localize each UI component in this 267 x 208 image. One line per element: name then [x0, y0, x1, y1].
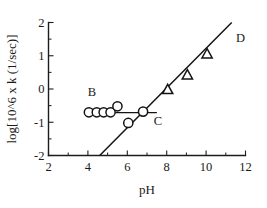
x-tick-label: 4	[85, 160, 92, 174]
y-axis-tick-labels: 210-1-2	[34, 16, 44, 163]
y-axis-title: log[10^6 x k (1/sec)]	[4, 35, 19, 144]
y-tick-label: -1	[34, 116, 44, 130]
y-tick-label: -2	[34, 149, 44, 163]
y-tick-label: 2	[38, 16, 44, 30]
x-axis-tick-labels: 24681012	[45, 160, 251, 174]
x-tick-label: 2	[45, 160, 51, 174]
x-axis: 24681012	[45, 151, 251, 174]
plot-canvas: 210-1-2 24681012 BCD pH log[10^6 x k (1/…	[0, 0, 267, 208]
x-tick-label: 8	[164, 160, 170, 174]
y-axis: 210-1-2	[34, 16, 53, 163]
annotation-label-c: C	[154, 114, 162, 128]
annotation-label-b: B	[88, 85, 96, 99]
x-tick-label: 6	[124, 160, 130, 174]
annotation-label-d: D	[236, 31, 245, 45]
y-tick-label: 0	[38, 82, 44, 96]
y-axis-ticks	[49, 23, 54, 156]
x-axis-ticks	[49, 151, 246, 156]
x-tick-label: 10	[200, 160, 213, 174]
data-point-triangle	[163, 84, 173, 93]
y-tick-label: 1	[38, 49, 44, 63]
data-point-circle	[138, 107, 147, 116]
data-point-circle	[124, 118, 133, 127]
x-axis-title: pH	[139, 182, 155, 197]
data-point-circle	[113, 102, 122, 111]
fit-lines	[86, 23, 232, 156]
x-tick-label: 12	[239, 160, 252, 174]
chart-figure: 210-1-2 24681012 BCD pH log[10^6 x k (1/…	[0, 0, 267, 208]
